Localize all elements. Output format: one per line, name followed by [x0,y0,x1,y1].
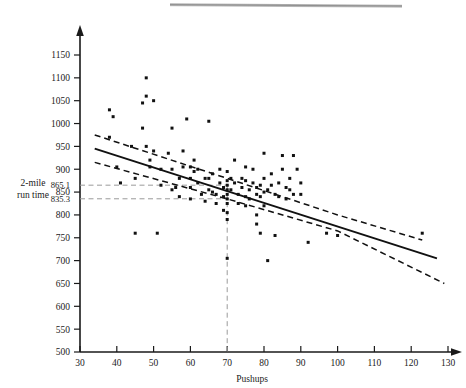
data-point [112,115,115,118]
x-tick-label: 30 [75,358,85,368]
data-point [251,168,254,171]
x-tick-label: 60 [186,358,196,368]
data-point [156,232,159,235]
data-point [266,188,269,191]
data-point [218,168,221,171]
x-tick-label: 100 [330,358,345,368]
data-point [251,181,254,184]
x-tick-label: 80 [259,358,269,368]
data-point [200,193,203,196]
data-point [141,127,144,130]
data-point [171,168,174,171]
data-point [233,181,236,184]
data-point [215,202,218,205]
x-tick-label: 40 [112,358,122,368]
data-point [233,159,236,162]
data-point [244,179,247,182]
lower-confidence-band [95,162,445,283]
data-point [185,117,188,120]
data-points-group [108,76,424,262]
data-point [119,181,122,184]
data-point [336,234,339,237]
data-point [266,259,269,262]
data-point [325,232,328,235]
data-point [189,186,192,189]
y-tick-label: 650 [56,279,71,289]
y-tick-label: 800 [56,210,71,220]
data-point [263,177,266,180]
data-point [204,177,207,180]
data-point [229,188,232,191]
data-point [145,76,148,79]
data-point [259,232,262,235]
data-point [263,152,266,155]
data-point [285,186,288,189]
data-point [255,223,258,226]
data-point [226,202,229,205]
y-tick-label: 1000 [51,119,70,129]
data-point [229,177,232,180]
data-point [288,188,291,191]
data-point [222,195,225,198]
data-point [299,193,302,196]
data-point [152,149,155,152]
data-point [171,127,174,130]
data-point [189,197,192,200]
data-point [196,181,199,184]
y-tick-label: 750 [56,233,71,243]
data-point [189,177,192,180]
y-tick-label: 550 [56,325,71,335]
data-point [218,181,221,184]
data-point [277,195,280,198]
data-point [263,191,266,194]
data-point [134,232,137,235]
y-axis-title-line-1: 2-mile [21,178,46,188]
y-tick-label: 1100 [51,73,70,83]
data-point [182,149,185,152]
data-point [193,170,196,173]
data-point [152,99,155,102]
data-point [281,168,284,171]
data-point [263,204,266,207]
data-point [421,232,424,235]
x-axis-ticks: 30405060708090100110120130 [75,346,455,368]
y-tick-label: 900 [56,165,71,175]
data-point [259,195,262,198]
data-point [171,188,174,191]
data-point [226,197,229,200]
x-tick-label: 120 [404,358,419,368]
data-point [211,172,214,175]
data-point [270,172,273,175]
data-point [182,165,185,168]
upper-prediction-label: 865.1 [51,180,70,190]
x-tick-label: 110 [367,358,381,368]
data-point [226,179,229,182]
x-tick-label: 130 [441,358,456,368]
data-point [274,193,277,196]
data-point [108,108,111,111]
fitted-regression-line [95,149,437,259]
data-point [215,193,218,196]
data-point [292,193,295,196]
data-point [307,241,310,244]
data-point [207,177,210,180]
y-tick-label: 500 [56,347,71,357]
data-point [240,177,243,180]
x-axis-title: Pushups [236,374,268,384]
data-point [237,202,240,205]
data-point [244,165,247,168]
data-point [211,191,214,194]
data-point [244,195,247,198]
data-point [178,195,181,198]
data-point [226,188,229,191]
data-point [226,257,229,260]
data-point [148,159,151,162]
data-point [226,211,229,214]
data-point [226,193,229,196]
data-point [196,168,199,171]
upper-confidence-band [95,135,423,240]
data-point [108,136,111,139]
data-point [255,193,258,196]
data-point [226,184,229,187]
data-point [145,95,148,98]
